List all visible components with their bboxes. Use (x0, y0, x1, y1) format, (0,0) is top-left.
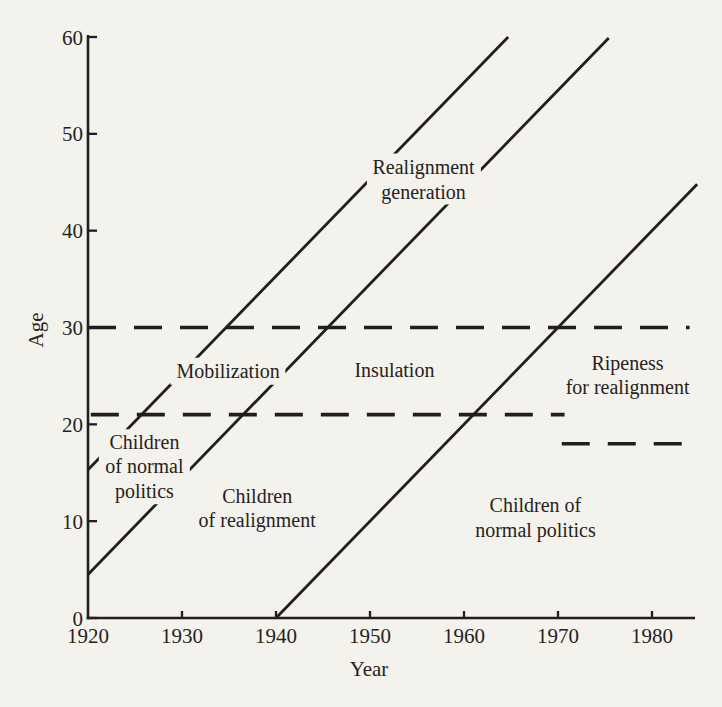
y-tick-label: 60 (62, 26, 83, 50)
region-label-text: Realignment (372, 155, 474, 180)
x-tick-label: 1920 (67, 624, 109, 648)
y-tick-label: 30 (62, 316, 83, 340)
x-tick-label: 1950 (349, 624, 391, 648)
region-label-text: normal politics (475, 517, 596, 542)
x-tick-label: 1930 (161, 624, 203, 648)
region-label-insulation: Insulation (348, 357, 440, 384)
x-tick-label: 1940 (255, 624, 297, 648)
region-label-text: Children (105, 430, 183, 455)
region-label-children-of-normal-politics-right: Children ofnormal politics (469, 492, 602, 543)
region-label-ripeness-for-realignment: Ripenessfor realignment (560, 349, 696, 400)
region-label-text: for realignment (566, 375, 690, 400)
y-tick-label: 20 (62, 413, 83, 437)
x-tick-label: 1960 (443, 624, 485, 648)
region-label-text: politics (105, 479, 183, 504)
region-label-mobilization: Mobilization (170, 358, 285, 385)
region-label-text: Children (199, 483, 316, 508)
region-label-text: Insulation (354, 358, 434, 383)
cohort-boundary-born-1940 (276, 184, 697, 618)
region-label-text: of realignment (199, 508, 316, 533)
x-tick-label: 1970 (537, 624, 579, 648)
y-tick-label: 40 (62, 219, 83, 243)
cohort-realignment-figure: 0102030405060192019301940195019601970198… (0, 0, 722, 707)
region-label-text: Children of (475, 493, 596, 518)
region-label-children-of-normal-politics-left: Childrenof normalpolitics (99, 429, 189, 505)
region-label-text: Mobilization (176, 359, 279, 384)
x-tick-label: 1980 (631, 624, 673, 648)
y-tick-label: 10 (62, 510, 83, 534)
y-tick-label: 50 (62, 122, 83, 146)
region-label-realignment-generation: Realignmentgeneration (366, 154, 480, 205)
region-label-text: of normal (105, 455, 183, 480)
region-label-text: Ripeness (566, 350, 690, 375)
region-label-children-of-realignment: Childrenof realignment (193, 482, 322, 533)
region-label-text: generation (372, 179, 474, 204)
y-axis-title: Age (24, 313, 49, 348)
cohort-boundary-born-1905 (88, 37, 508, 470)
x-axis-title: Year (350, 657, 389, 682)
